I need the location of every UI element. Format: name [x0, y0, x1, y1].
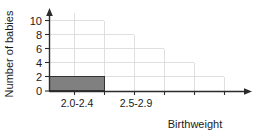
bar-2-0-2-4 [50, 77, 105, 92]
x-tick-label-2-5-2-9: 2.5-2.9 [120, 97, 153, 109]
y-tick-label-4: 4 [36, 57, 42, 69]
y-tick-label-2: 2 [36, 71, 42, 83]
histogram-chart: 0 2 4 6 8 10 2.0-2.4 2.5-2.9 Birthweight… [0, 0, 259, 137]
y-axis-arrowhead [46, 8, 53, 16]
y-tick-label-8: 8 [36, 29, 42, 41]
y-tick-label-10: 10 [30, 15, 42, 27]
x-axis-title: Birthweight [168, 118, 222, 130]
y-tick-label-6: 6 [36, 43, 42, 55]
y-axis-title: Number of babies [3, 10, 15, 97]
chart-container: 0 2 4 6 8 10 2.0-2.4 2.5-2.9 Birthweight… [0, 0, 259, 137]
x-tick-label-2-0-2-4: 2.0-2.4 [61, 97, 94, 109]
x-axis-arrowhead [244, 88, 252, 95]
grid-horizontal [49, 21, 224, 77]
y-tick-label-0: 0 [36, 85, 42, 97]
